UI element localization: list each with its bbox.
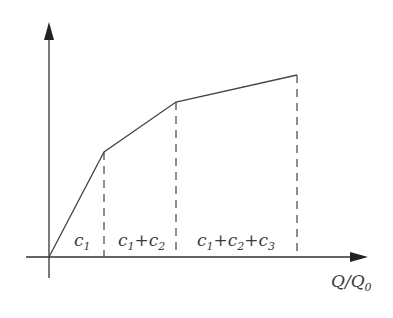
y-axis-arrow-icon [44, 22, 54, 40]
x-axis-label: Q/Q0 [331, 271, 372, 294]
piecewise-diagram: c1 c1+c2 c1+c2+c3 Q/Q0 [0, 0, 393, 318]
segment-label-1: c1 [74, 230, 91, 253]
segment-label-2: c1+c2 [118, 230, 165, 253]
segment-label-3: c1+c2+c3 [197, 230, 275, 253]
x-axis-arrow-icon [350, 252, 368, 262]
